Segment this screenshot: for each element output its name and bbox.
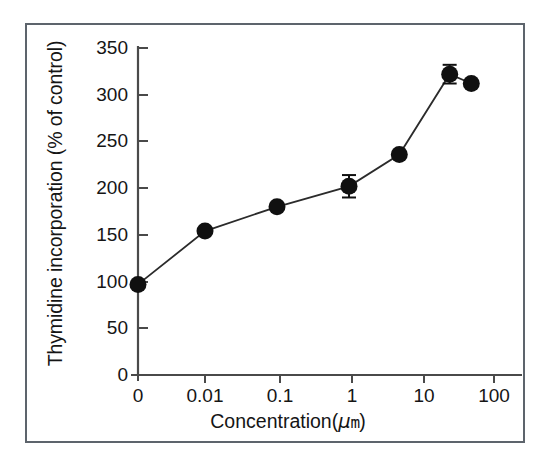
data-point-marker [391, 146, 408, 163]
data-point-marker [463, 75, 480, 92]
figure-container: Thymidine incorporation (% of control) 0… [0, 0, 543, 462]
data-point-marker [441, 66, 458, 83]
data-line [138, 74, 471, 284]
data-point-marker [269, 198, 286, 215]
data-point-marker [341, 178, 358, 195]
y-tick-marks [131, 48, 148, 375]
data-point-marker [197, 223, 214, 240]
data-point-marker [130, 276, 147, 293]
data-series-layer [130, 65, 480, 293]
chart-plot-area: Thymidine incorporation (% of control) 0… [0, 0, 543, 462]
chart-svg [0, 0, 543, 462]
